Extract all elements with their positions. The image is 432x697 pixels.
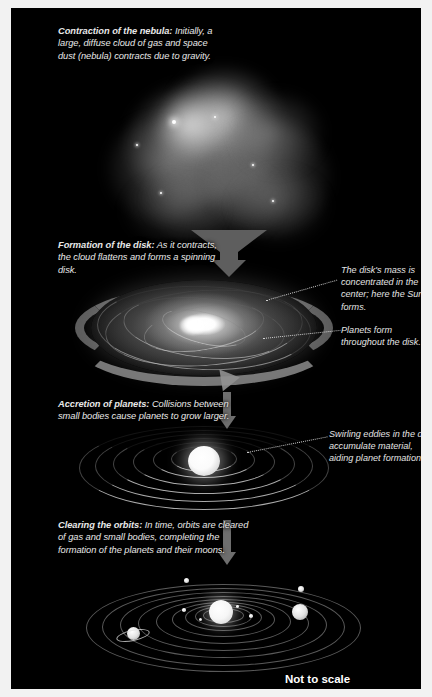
caption-clearing: Clearing the orbits: In time, orbits are… xyxy=(58,519,253,556)
annotation-swirling-eddies: Swirling eddies in the disk accumulate m… xyxy=(329,428,421,465)
caption-accretion: Accretion of planets: Collisions between… xyxy=(58,398,243,423)
planet-jupiter xyxy=(292,604,308,620)
stage-accretion-of-planets xyxy=(79,420,329,512)
annotation-sun-forms: The disk's mass is concentrated in the c… xyxy=(341,264,421,313)
scale-note: Not to scale xyxy=(285,673,350,685)
planet-mercury xyxy=(236,605,239,608)
planet-earth xyxy=(249,614,253,618)
stage-clearing-the-orbits xyxy=(86,574,361,674)
planet-neptune xyxy=(298,586,304,592)
caption-clearing-heading: Clearing the orbits: xyxy=(58,520,142,530)
annotation-planets-form: Planets form throughout the disk. xyxy=(341,324,421,348)
planet-mars xyxy=(182,608,186,612)
solar-system-formation-figure: Contraction of the nebula: Initially, a … xyxy=(0,0,432,697)
caption-disk-formation: Formation of the disk: As it contracts, … xyxy=(58,239,226,276)
caption-accretion-heading: Accretion of planets: xyxy=(58,399,149,409)
rotation-arrow-head xyxy=(219,367,241,392)
planet-venus xyxy=(199,618,202,621)
figure-plate: Contraction of the nebula: Initially, a … xyxy=(11,8,421,689)
caption-contraction: Contraction of the nebula: Initially, a … xyxy=(58,25,218,62)
planet-uranus xyxy=(184,578,189,583)
caption-disk-heading: Formation of the disk: xyxy=(58,240,155,250)
caption-contraction-heading: Contraction of the nebula: xyxy=(58,26,172,36)
accreting-sun xyxy=(188,446,220,476)
stage-contraction-nebula xyxy=(96,60,341,250)
sun xyxy=(209,600,233,624)
rotation-ribbon-front xyxy=(75,302,333,386)
